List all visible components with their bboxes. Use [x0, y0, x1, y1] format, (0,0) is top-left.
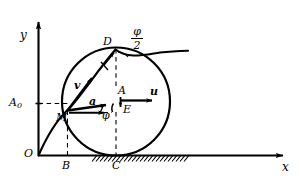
point-D-label: D	[103, 36, 112, 47]
acceleration-vector	[68, 105, 107, 111]
velocity-vector-label: v	[74, 80, 80, 91]
chord-arrow-at-D	[104, 53, 114, 66]
angle-phi-label: φ	[102, 110, 110, 121]
x-axis-label: x	[282, 161, 289, 173]
ordinate-A0-letter: A	[9, 96, 17, 109]
point-B-label: B	[62, 160, 70, 171]
point-E-label: E	[123, 104, 131, 115]
point-C-label: C	[112, 160, 120, 171]
y-axis-label: y	[20, 29, 27, 41]
acceleration-vector-label: a	[89, 96, 96, 107]
point-M-label: M	[56, 112, 67, 123]
angle-phi-over-two-numerator: φ	[131, 26, 143, 38]
origin-label: O	[24, 148, 33, 159]
translation-velocity-vector-label: u	[150, 86, 158, 97]
angle-phi-over-two-label: φ 2	[131, 26, 143, 51]
point-A-label: A	[118, 85, 126, 96]
ground-hatching	[92, 156, 189, 162]
angle-arc-phi-at-E	[112, 104, 114, 113]
ordinate-A0-label: A0	[9, 97, 22, 110]
angle-phi-over-two-denominator: 2	[131, 40, 143, 52]
ordinate-A0-subscript: 0	[17, 101, 22, 110]
physics-diagram-figure: y x O A0 M D A E B C v a u φ φ 2	[0, 0, 300, 186]
